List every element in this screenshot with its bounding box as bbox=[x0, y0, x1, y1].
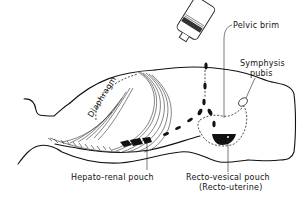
pouch-marker bbox=[227, 136, 229, 138]
symphysis-label-line2: pubis bbox=[250, 69, 273, 78]
recto-vesical-pouch-fluid bbox=[212, 134, 236, 145]
symphysis-pubis-shape bbox=[237, 96, 249, 108]
recto-vesical-label-line2: (Recto-uterine) bbox=[199, 183, 262, 192]
head-outline bbox=[24, 99, 70, 116]
symphysis-label-line1: Symphysis bbox=[240, 59, 285, 68]
recto-vesical-label-line1: Recto-vesical pouch bbox=[186, 173, 270, 182]
peritoneal-pouch-diagram: Diaphragm Hepato-renal pouch Pelvic brim… bbox=[0, 0, 308, 205]
hip-outline bbox=[248, 82, 296, 161]
bottle-icon bbox=[172, 0, 216, 46]
hepato-renal-label: Hepato-renal pouch bbox=[71, 173, 154, 182]
lower-back-outline bbox=[18, 145, 248, 164]
fluid-drops bbox=[162, 63, 215, 137]
symphysis-leader bbox=[246, 78, 255, 98]
pelvic-brim-label: Pelvic brim bbox=[233, 21, 279, 30]
pelvic-brim-leader bbox=[224, 25, 232, 118]
rib-cage bbox=[62, 72, 171, 152]
